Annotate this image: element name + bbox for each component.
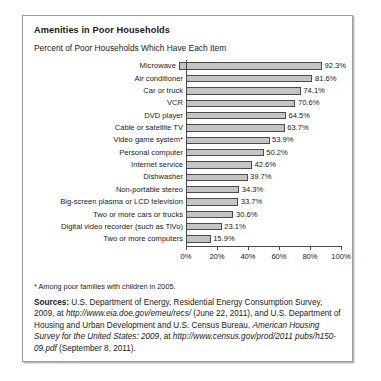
bar (186, 211, 233, 218)
bar-value-label: 50.2% (266, 149, 288, 157)
bar-row: Video game system*53.9% (34, 134, 346, 146)
chart-title: Amenities in Poor Households (34, 25, 170, 35)
x-axis-tick (341, 246, 342, 250)
category-label: Video game system* (34, 136, 186, 144)
bar-track: 81.6% (186, 72, 346, 84)
bar (186, 186, 239, 193)
x-axis-tick-label: 20% (209, 252, 224, 261)
bar (186, 100, 295, 107)
category-label: Big-screen plasma or LCD television (34, 198, 186, 206)
bar-value-label: 15.9% (213, 235, 235, 243)
bar-value-label: 81.6% (315, 75, 337, 83)
bar-track: 23.1% (186, 220, 346, 232)
bar-value-label: 92.3% (324, 62, 346, 70)
sources-url-1: http://www.eia.doe.gov/emeu/recs/ (66, 309, 191, 318)
bar-row: DVD player64.5% (34, 109, 346, 121)
x-axis-tick-label: 80% (302, 252, 317, 261)
bar-row: Digital video recorder (such as TiVo)23.… (34, 220, 346, 232)
x-axis-tick-label: 0% (181, 252, 192, 261)
sources-text-4: (September 8, 2011). (57, 344, 136, 353)
bar-row: Personal computer50.2% (34, 146, 346, 158)
bar-row: Two or more cars or trucks30.6% (34, 208, 346, 220)
bar (186, 75, 312, 82)
bar-track: 63.7% (186, 122, 346, 134)
bar (186, 112, 286, 119)
bar-track: 92.3% (179, 60, 346, 72)
bar-row: Car or truck74.1% (34, 85, 346, 97)
category-label: VCR (34, 99, 186, 107)
bar-row: Microwave92.3% (34, 60, 346, 72)
bar-row: Non-portable stereo34.3% (34, 183, 346, 195)
bar-value-label: 39.7% (250, 173, 272, 181)
bar-row: VCR70.6% (34, 97, 346, 109)
bar-track: 70.6% (186, 97, 346, 109)
x-axis-tick (217, 246, 218, 250)
x-axis-tick (248, 246, 249, 250)
bar-value-label: 33.7% (241, 198, 263, 206)
bar (186, 174, 248, 181)
bar-value-label: 64.5% (288, 112, 310, 120)
bar-chart-plot: Microwave92.3%Air conditioner81.6%Car or… (34, 60, 346, 272)
bar-row: Internet service42.6% (34, 159, 346, 171)
bar (186, 149, 264, 156)
bar (186, 87, 301, 94)
category-label: Personal computer (34, 149, 186, 157)
category-label: Microwave (34, 62, 179, 70)
bar-value-label: 70.6% (298, 99, 320, 107)
bar (186, 161, 252, 168)
bar-row: Cable or satellite TV63.7% (34, 122, 346, 134)
category-label: Two or more computers (34, 235, 186, 243)
bar (186, 235, 211, 242)
bar-track: 34.3% (186, 183, 346, 195)
chart-footnote: * Among poor families with children in 2… (34, 282, 176, 291)
x-axis-line (186, 246, 341, 247)
x-axis-tick (279, 246, 280, 250)
bar-track: 15.9% (186, 233, 346, 245)
category-label: Two or more cars or trucks (34, 211, 186, 219)
bar-value-label: 34.3% (242, 186, 264, 194)
bar-track: 42.6% (186, 159, 346, 171)
x-axis-tick-label: 100% (331, 252, 350, 261)
bar-rows: Microwave92.3%Air conditioner81.6%Car or… (34, 60, 346, 245)
category-label: Air conditioner (34, 75, 186, 83)
category-label: DVD player (34, 112, 186, 120)
bar-value-label: 30.6% (236, 211, 258, 219)
bar-row: Dishwasher39.7% (34, 171, 346, 183)
sources-text-3: , at (159, 332, 173, 341)
bar-track: 64.5% (186, 109, 346, 121)
sources-label: Sources: (34, 298, 69, 307)
bar-track: 53.9% (186, 134, 346, 146)
sources-note: Sources: U.S. Department of Energy, Resi… (34, 297, 342, 354)
bar (186, 124, 285, 131)
bar-value-label: 63.7% (287, 124, 309, 132)
category-label: Non-portable stereo (34, 186, 186, 194)
bar-value-label: 74.1% (303, 87, 325, 95)
x-axis-tick-label: 40% (240, 252, 255, 261)
category-label: Car or truck (34, 87, 186, 95)
figure-panel: Amenities in Poor Households Percent of … (22, 15, 353, 362)
bar (186, 198, 238, 205)
bar-row: Big-screen plasma or LCD television33.7% (34, 196, 346, 208)
bar-track: 50.2% (186, 146, 346, 158)
bar-value-label: 42.6% (255, 161, 277, 169)
x-axis-tick (186, 246, 187, 250)
bar (179, 62, 322, 69)
bar (186, 223, 222, 230)
category-label: Dishwasher (34, 173, 186, 181)
chart-subtitle: Percent of Poor Households Which Have Ea… (34, 43, 226, 53)
category-label: Digital video recorder (such as TiVo) (34, 223, 186, 231)
x-axis-tick (310, 246, 311, 250)
bar-value-label: 23.1% (224, 223, 246, 231)
bar-track: 39.7% (186, 171, 346, 183)
category-label: Cable or satellite TV (34, 124, 186, 132)
bar-track: 33.7% (186, 196, 346, 208)
bar-track: 74.1% (186, 85, 346, 97)
bar-track: 30.6% (186, 208, 346, 220)
y-axis-line (186, 60, 187, 246)
category-label: Internet service (34, 161, 186, 169)
bar-value-label: 53.9% (272, 136, 294, 144)
x-axis-tick-label: 60% (271, 252, 286, 261)
bar-row: Two or more computers15.9% (34, 233, 346, 245)
bar-row: Air conditioner81.6% (34, 72, 346, 84)
bar (186, 137, 270, 144)
